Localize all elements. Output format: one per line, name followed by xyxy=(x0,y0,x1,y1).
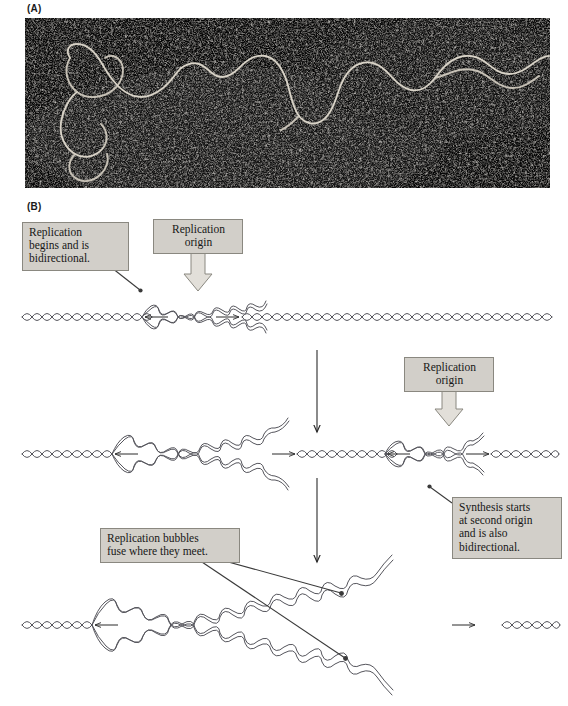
callout-synthesis-second-origin: Synthesis starts at second origin and is… xyxy=(452,497,562,559)
panel-a-label: (A) xyxy=(27,3,41,14)
callout-replication-bubbles-fuse: Replication bubbles fuse where they meet… xyxy=(100,528,240,563)
figure-root: (A) xyxy=(0,0,568,706)
panel-b-label: (B) xyxy=(27,201,41,212)
callout-replication-bidirectional: Replication begins and is bidirectional. xyxy=(22,222,129,271)
stage-2-dna xyxy=(22,418,559,490)
leader-lines-fuse xyxy=(190,554,348,661)
leader-line-second-origin xyxy=(427,484,452,503)
origin-pointer-arrow-2 xyxy=(435,391,463,426)
leader-line-bidirectional xyxy=(112,268,143,293)
origin-pointer-arrow-1 xyxy=(184,253,212,291)
stage-1-dna xyxy=(22,301,552,333)
callout-replication-origin-1: Replication origin xyxy=(153,219,243,254)
callout-replication-origin-2: Replication origin xyxy=(404,357,494,392)
electron-micrograph-image xyxy=(25,18,550,188)
stage-3-dna xyxy=(22,555,560,695)
